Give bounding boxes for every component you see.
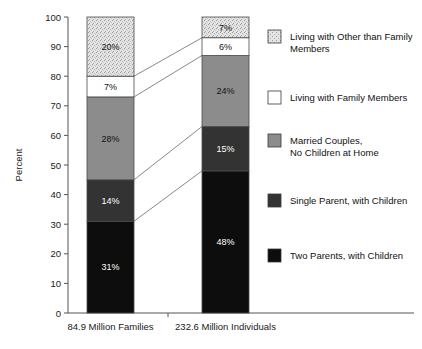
bar-segment-value-label: 20% (101, 42, 119, 52)
plot-area: 31%14%28%7%20%48%15%24%6%7% (87, 17, 249, 313)
legend-label: Married Couples, (290, 135, 362, 146)
category-link-line (134, 171, 202, 221)
legend-swatch[interactable] (268, 91, 281, 104)
legend-label: Living with Family Members (290, 92, 407, 103)
bar-segment-value-label: 15% (216, 144, 234, 154)
y-axis-tick-label: 10 (50, 278, 61, 289)
y-axis-tick-label: 100 (45, 12, 61, 23)
bar-segment-value-label: 28% (101, 134, 119, 144)
x-axis-category-labels: 84.9 Million Families232.6 Million Indiv… (67, 313, 276, 332)
bar-segment-value-label: 6% (219, 42, 232, 52)
y-axis-tick-label: 50 (50, 160, 61, 171)
bar-segment-value-label: 31% (101, 262, 119, 272)
chart-canvas: 0102030405060708090100Percent 31%14%28%7… (0, 0, 422, 349)
y-axis-tick-label: 80 (50, 71, 61, 82)
y-axis-tick-label: 40 (50, 189, 61, 200)
legend-swatch[interactable] (268, 30, 281, 43)
category-link-line (134, 127, 202, 180)
legend-label: Living with Other than Family (290, 31, 413, 42)
bar-segment-value-label: 48% (216, 237, 234, 247)
y-axis-tick-label: 0 (56, 308, 61, 319)
chart-legend: Living with Other than FamilyMembersLivi… (268, 30, 413, 262)
y-axis-tick-label: 60 (50, 130, 61, 141)
stacked-bar-chart: 0102030405060708090100Percent 31%14%28%7… (0, 0, 422, 349)
category-link-line (134, 55, 202, 96)
category-link-lines (134, 38, 202, 222)
legend-label-line2: Members (290, 43, 330, 54)
legend-swatch[interactable] (268, 194, 281, 207)
y-axis-tick-label: 20 (50, 248, 61, 259)
bar-segment-value-label: 24% (216, 86, 234, 96)
bar-segment-value-label: 7% (104, 82, 117, 92)
bar-segment-value-label: 14% (101, 196, 119, 206)
y-axis-tick-label: 70 (50, 100, 61, 111)
legend-swatch[interactable] (268, 134, 281, 147)
y-axis-tick-label: 30 (50, 219, 61, 230)
x-axis-category-label: 232.6 Million Individuals (175, 321, 276, 332)
legend-label-line2: No Children at Home (290, 147, 379, 158)
legend-swatch[interactable] (268, 249, 281, 262)
y-axis-title: Percent (13, 148, 24, 181)
x-axis-category-label: 84.9 Million Families (67, 321, 153, 332)
y-axis-tick-label: 90 (50, 41, 61, 52)
category-link-line (134, 38, 202, 76)
legend-label: Two Parents, with Children (290, 250, 403, 261)
legend-label: Single Parent, with Children (290, 195, 407, 206)
bar-segment-value-label: 7% (219, 23, 232, 33)
